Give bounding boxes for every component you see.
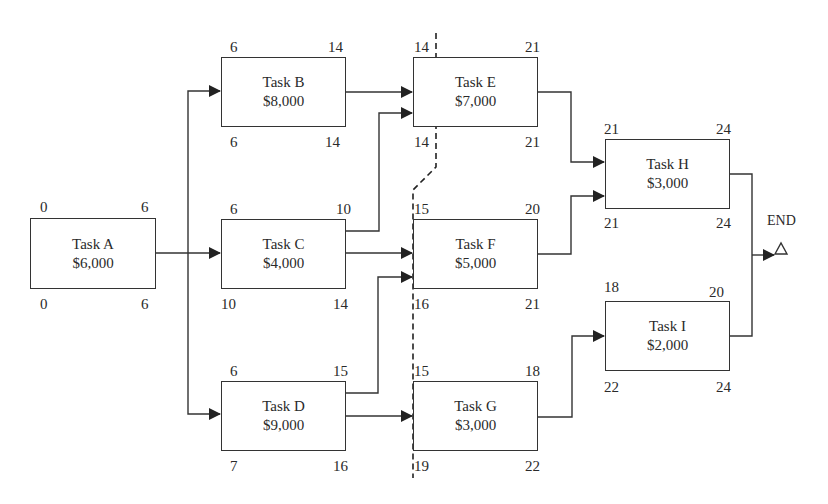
connector-c-e	[346, 113, 412, 231]
connector-h-end	[730, 174, 752, 255]
task-d-ef: 15	[333, 364, 348, 379]
task-b-es: 6	[230, 40, 238, 55]
task-i-lf: 24	[716, 380, 731, 395]
task-e-es: 14	[414, 40, 429, 55]
task-f-ls: 16	[414, 297, 429, 312]
task-b-ef: 14	[328, 40, 343, 55]
task-h-ef: 24	[716, 122, 731, 137]
task-b-cost: $8,000	[263, 92, 304, 111]
task-g-lf: 22	[525, 459, 540, 474]
task-i-box[interactable]: Task I $2,000	[605, 301, 730, 371]
task-d-name: Task D	[262, 397, 305, 416]
connector-i-end	[730, 255, 752, 336]
task-c-lf: 14	[333, 297, 348, 312]
task-i-ls: 22	[604, 380, 619, 395]
task-g-ls: 19	[414, 459, 429, 474]
task-d-cost: $9,000	[263, 416, 304, 435]
connector-d-f	[346, 277, 412, 393]
task-d-es: 6	[230, 364, 238, 379]
task-h-cost: $3,000	[647, 174, 688, 193]
connector-a-b	[188, 91, 220, 253]
task-a-lf: 6	[141, 297, 149, 312]
task-e-ls: 14	[414, 135, 429, 150]
task-i-name: Task I	[649, 317, 686, 336]
task-i-ef: 20	[709, 285, 724, 300]
task-h-name: Task H	[646, 155, 689, 174]
task-c-ls: 10	[221, 297, 236, 312]
task-e-name: Task E	[455, 73, 496, 92]
task-f-es: 15	[414, 202, 429, 217]
task-c-name: Task C	[263, 235, 305, 254]
task-g-es: 15	[414, 364, 429, 379]
connector-e-h	[538, 92, 604, 162]
connector-f-h	[538, 196, 604, 254]
task-a-es: 0	[40, 200, 48, 215]
task-c-box[interactable]: Task C $4,000	[221, 219, 346, 289]
task-a-ef: 6	[141, 200, 149, 215]
task-e-box[interactable]: Task E $7,000	[413, 57, 538, 127]
task-h-ls: 21	[604, 216, 619, 231]
end-label: END	[767, 213, 796, 229]
task-a-cost: $6,000	[72, 254, 113, 273]
task-g-box[interactable]: Task G $3,000	[413, 381, 538, 451]
task-f-box[interactable]: Task F $5,000	[413, 219, 538, 289]
task-h-lf: 24	[716, 216, 731, 231]
task-h-box[interactable]: Task H $3,000	[605, 139, 730, 209]
connector-a-d	[188, 253, 220, 414]
task-f-lf: 21	[525, 297, 540, 312]
network-diagram: 0 6 Task A $6,000 0 6 6 14 Task B $8,000…	[0, 0, 828, 504]
task-f-name: Task F	[455, 235, 495, 254]
end-triangle-icon	[775, 243, 787, 254]
task-b-ls: 6	[230, 135, 238, 150]
task-b-name: Task B	[263, 73, 305, 92]
task-d-ls: 7	[230, 459, 238, 474]
task-g-ef: 18	[525, 364, 540, 379]
task-e-ef: 21	[525, 40, 540, 55]
task-f-cost: $5,000	[455, 254, 496, 273]
task-g-cost: $3,000	[455, 416, 496, 435]
task-i-es: 18	[604, 280, 619, 295]
task-a-box[interactable]: Task A $6,000	[30, 218, 156, 289]
task-b-lf: 14	[325, 135, 340, 150]
task-e-cost: $7,000	[455, 92, 496, 111]
task-g-name: Task G	[454, 397, 497, 416]
task-c-cost: $4,000	[263, 254, 304, 273]
task-c-es: 6	[230, 202, 238, 217]
task-d-lf: 16	[333, 459, 348, 474]
task-a-ls: 0	[40, 297, 48, 312]
task-a-name: Task A	[72, 235, 114, 254]
task-f-ef: 20	[525, 202, 540, 217]
task-i-cost: $2,000	[647, 336, 688, 355]
task-c-ef: 10	[336, 202, 351, 217]
task-b-box[interactable]: Task B $8,000	[221, 57, 346, 127]
connector-g-i	[538, 336, 604, 417]
task-e-lf: 21	[525, 135, 540, 150]
task-d-box[interactable]: Task D $9,000	[221, 381, 346, 451]
task-h-es: 21	[604, 122, 619, 137]
